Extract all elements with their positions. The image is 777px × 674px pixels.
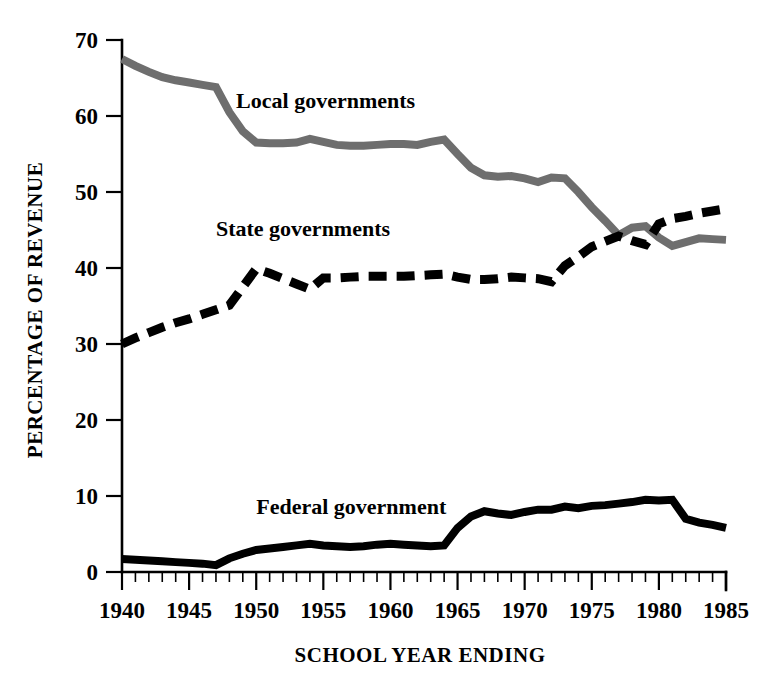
series-labels: Local governmentsState governmentsFedera… [216, 88, 447, 519]
x-axis-title: SCHOOL YEAR ENDING [295, 643, 546, 667]
y-tick-label: 20 [75, 408, 98, 433]
y-tick-label: 30 [75, 332, 98, 357]
series-label-state-governments: State governments [216, 216, 391, 241]
y-tick-label: 10 [75, 484, 98, 509]
y-tick-label: 60 [75, 104, 98, 129]
x-tick-label: 1945 [166, 598, 212, 623]
data-series [122, 59, 726, 565]
x-tick-label: 1940 [99, 598, 145, 623]
y-tick-label: 50 [75, 180, 98, 205]
x-tick-label: 1960 [367, 598, 413, 623]
y-tick-label: 40 [75, 256, 98, 281]
x-tick-label: 1980 [636, 598, 682, 623]
x-tick-label: 1985 [703, 598, 749, 623]
series-label-local-governments: Local governments [236, 88, 415, 113]
y-axis-title: PERCENTAGE OF REVENUE [23, 162, 47, 458]
y-tick-label: 0 [87, 560, 99, 585]
series-line-local-governments [122, 59, 726, 246]
x-tick-label: 1975 [569, 598, 615, 623]
x-tick-label: 1955 [300, 598, 346, 623]
line-chart-svg: 0102030405060701940194519501955196019651… [0, 0, 777, 674]
chart-figure: 0102030405060701940194519501955196019651… [0, 0, 777, 674]
y-tick-label: 70 [75, 28, 98, 53]
x-tick-label: 1965 [435, 598, 481, 623]
series-label-federal-government: Federal government [256, 494, 447, 519]
x-tick-label: 1950 [233, 598, 279, 623]
x-tick-label: 1970 [502, 598, 548, 623]
